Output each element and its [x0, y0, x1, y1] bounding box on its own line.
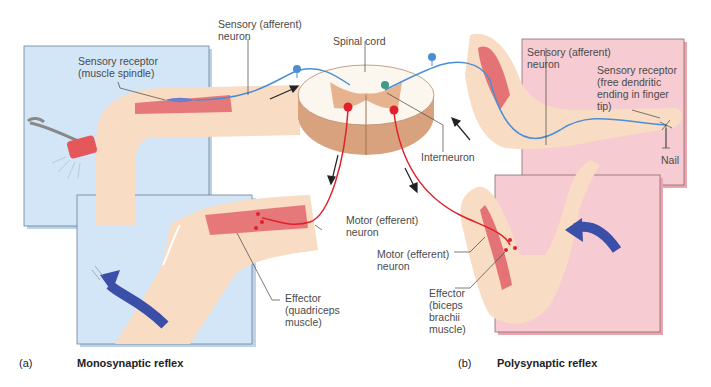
label-sensory-neuron-a: Sensory (afferent) neuron [218, 18, 302, 42]
label-sensory-receptor-b: Sensory receptor (free dendritic ending … [597, 64, 677, 112]
label-nail: Nail [661, 154, 679, 166]
label-spinal-cord: Spinal cord [333, 35, 386, 47]
label-sensory-receptor-a: Sensory receptor (muscle spindle) [78, 55, 158, 79]
caption-title-a: Monosynaptic reflex [77, 357, 183, 369]
caption-letter-b: (b) [458, 357, 471, 369]
label-interneuron: Interneuron [421, 151, 475, 163]
spinal-cord [298, 65, 434, 155]
label-motor-neuron-a: Motor (efferent) neuron [346, 214, 418, 238]
caption-letter-a: (a) [19, 357, 32, 369]
label-motor-neuron-b: Motor (efferent) neuron [377, 248, 449, 272]
label-effector-a: Effector (quadriceps muscle) [285, 292, 340, 328]
label-effector-b: Effector (biceps brachii muscle) [429, 287, 466, 335]
caption-title-b: Polysynaptic reflex [497, 357, 597, 369]
